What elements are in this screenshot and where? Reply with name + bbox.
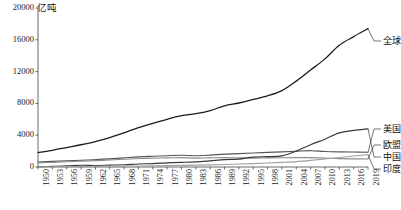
x-tick-label: 1971	[142, 169, 151, 185]
x-tick-label: 1986	[214, 169, 223, 185]
series-label: 美国	[383, 124, 401, 134]
x-tick-label: 1995	[257, 169, 266, 185]
x-tick-label: 2013	[343, 169, 352, 185]
tick-marks	[36, 8, 369, 170]
leader-lines	[368, 29, 381, 169]
series-leader-line	[368, 129, 381, 152]
x-tick-label: 2004	[300, 169, 309, 185]
series-label: 全球	[383, 36, 401, 46]
x-tick-label: 2007	[314, 169, 323, 185]
x-axis-tick-labels: 1950195319561959196219651968197119741977…	[0, 168, 395, 210]
x-tick-label: 1983	[199, 169, 208, 185]
x-tick-label: 1977	[171, 169, 180, 185]
x-tick-label: 2019	[372, 169, 381, 185]
x-tick-label: 1956	[70, 169, 79, 185]
x-tick-label: 1989	[228, 169, 237, 185]
series-label: 欧盟	[383, 140, 401, 150]
x-tick-label: 2016	[357, 169, 366, 185]
series-leader-line	[368, 29, 381, 41]
x-tick-label: 1950	[42, 169, 51, 185]
x-tick-label: 1959	[85, 169, 94, 185]
x-tick-label: 1962	[99, 169, 108, 185]
x-tick-label: 2010	[328, 169, 337, 185]
x-tick-label: 2001	[285, 169, 294, 185]
x-tick-label: 1968	[128, 169, 137, 185]
x-tick-label: 1965	[113, 169, 122, 185]
series-lines	[38, 29, 368, 167]
series-line	[38, 151, 368, 162]
x-tick-label: 1974	[156, 169, 165, 185]
x-tick-label: 1998	[271, 169, 280, 185]
series-leader-line	[368, 129, 381, 157]
x-tick-label: 1992	[242, 169, 251, 185]
x-tick-label: 1980	[185, 169, 194, 185]
series-line	[38, 29, 368, 153]
series-label: 中国	[383, 152, 401, 162]
series-label: 印度	[383, 164, 401, 174]
x-tick-label: 1953	[56, 169, 65, 185]
